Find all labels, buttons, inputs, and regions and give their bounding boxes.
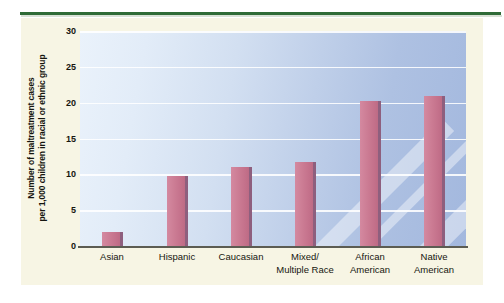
bar	[295, 162, 316, 246]
gridline	[80, 139, 466, 141]
y-axis-title-line-1: Number of maltreatment cases	[26, 77, 36, 198]
x-axis-labels: AsianHispanicCaucasianMixed/Multiple Rac…	[80, 250, 466, 296]
chart-figure: Number of maltreatment cases per 1,000 c…	[0, 0, 504, 303]
gridline	[80, 210, 466, 212]
bar	[167, 176, 188, 246]
gridline	[80, 103, 466, 105]
x-tick-label: NativeAmerican	[392, 250, 476, 276]
y-axis-title-line-2: per 1,000 children in racial or ethnic g…	[37, 54, 48, 221]
y-tick-label: 10	[52, 169, 76, 179]
y-tick-label: 20	[52, 98, 76, 108]
bar	[231, 167, 252, 246]
y-tick-label: 5	[52, 205, 76, 215]
bar	[424, 96, 445, 247]
gridline	[80, 31, 466, 33]
gridline	[80, 174, 466, 176]
x-tick-label-line: American	[392, 263, 476, 276]
plot-area	[80, 31, 466, 246]
y-tick-label: 30	[52, 26, 76, 36]
y-tick-label: 15	[52, 134, 76, 144]
gridline	[80, 67, 466, 69]
x-axis-line	[78, 246, 468, 248]
y-tick-label: 25	[52, 62, 76, 72]
y-axis-title: Number of maltreatment cases per 1,000 c…	[22, 30, 52, 246]
header-rule-shadow	[21, 15, 502, 17]
x-tick-label-line: Native	[392, 250, 476, 263]
bar	[102, 232, 123, 246]
bar	[360, 101, 381, 246]
